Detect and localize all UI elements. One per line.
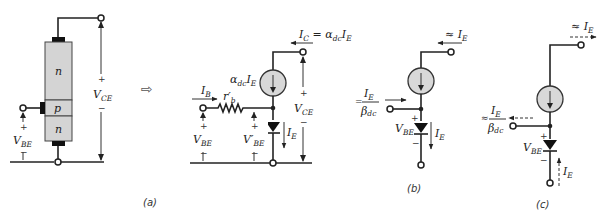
base-current-numerator: IE	[490, 104, 501, 119]
diode-icon	[543, 140, 557, 150]
model-a: IC = αdcIE αdcIE IB r′b + VBE −	[190, 28, 352, 166]
collector-terminal	[448, 49, 454, 55]
svg-text:+: +	[411, 113, 419, 123]
ie-label: IE	[562, 165, 573, 180]
ib-label: IB	[200, 84, 211, 99]
svg-text:+: +	[200, 121, 208, 131]
collector-contact	[52, 37, 65, 42]
region-label-n-top: n	[55, 65, 62, 78]
collector-wire	[58, 18, 101, 40]
base-node	[419, 107, 424, 112]
resistor-rb	[206, 104, 273, 112]
base-terminal	[387, 106, 393, 112]
diode-icon	[266, 122, 280, 132]
base-terminal	[200, 105, 206, 111]
caption-b: (b)	[407, 183, 421, 194]
emitter-terminal	[418, 162, 424, 168]
bjt-model-diagram: n p n + VCE − + VBE − ⇨ IC = αdcIE	[0, 0, 609, 221]
base-terminal	[20, 105, 26, 111]
base-current-denominator: βdc	[487, 122, 504, 135]
emitter-terminal	[270, 160, 276, 166]
emitter-terminal	[547, 180, 553, 186]
svg-text:−: −	[251, 148, 259, 158]
top-current-label: ≈ IE	[445, 28, 468, 43]
svg-text:+: +	[300, 88, 308, 98]
svg-text:+: +	[20, 122, 28, 132]
model-c: ≈ IE ≈ IE βdc + VBE − IE	[481, 20, 596, 186]
svg-text:−: −	[98, 103, 106, 113]
svg-text:−: −	[300, 117, 308, 127]
base-current-denominator: βdc	[360, 105, 377, 118]
svg-text:+: +	[98, 74, 106, 84]
collector-terminal	[578, 42, 584, 48]
ic-equation: IC = αdcIE	[298, 28, 352, 43]
base-node	[548, 124, 553, 129]
region-label-p: p	[54, 102, 61, 115]
ie-label: IE	[434, 127, 445, 142]
emitter-terminal	[55, 159, 61, 165]
collector-terminal	[300, 49, 306, 55]
svg-text:−: −	[412, 138, 420, 148]
model-b: ≈ IE = IE βdc + VBE − IE	[355, 28, 468, 168]
ie-label: IE	[286, 126, 297, 141]
physical-transistor: n p n + VCE − + VBE −	[10, 15, 113, 165]
svg-text:+: +	[540, 131, 548, 141]
source-label: αdcIE	[230, 73, 257, 88]
equivalence-arrow-icon: ⇨	[141, 81, 153, 97]
vbe-label: VBE	[395, 122, 414, 137]
vbe-label: VBE	[523, 141, 542, 156]
svg-text:−: −	[200, 148, 208, 158]
rb-label: r′b	[223, 90, 236, 105]
base-contact	[40, 102, 45, 114]
region-label-n-bottom: n	[55, 123, 62, 136]
svg-text:−: −	[20, 147, 28, 157]
svg-text:+: +	[251, 121, 259, 131]
emitter-contact	[52, 141, 65, 146]
caption-c: (c)	[536, 199, 549, 210]
base-terminal	[510, 123, 516, 129]
diode-icon	[414, 123, 428, 133]
collector-terminal	[98, 15, 104, 21]
svg-text:−: −	[540, 155, 548, 165]
top-current-label: ≈ IE	[571, 20, 594, 35]
base-current-numerator: IE	[363, 87, 374, 102]
caption-a: (a)	[143, 197, 157, 208]
